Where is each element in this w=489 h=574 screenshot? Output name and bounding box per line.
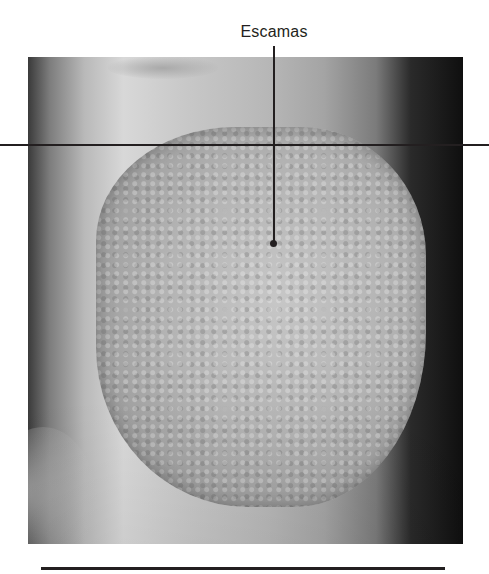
photo-shading [28, 57, 463, 544]
bottom-rule [41, 567, 445, 570]
annotation-leader-line [273, 46, 275, 242]
horizontal-divider-line [0, 144, 489, 146]
annotation-label: Escamas [228, 23, 320, 41]
skin-lesion-photo [28, 57, 463, 544]
annotation-pointer-dot [270, 240, 277, 247]
